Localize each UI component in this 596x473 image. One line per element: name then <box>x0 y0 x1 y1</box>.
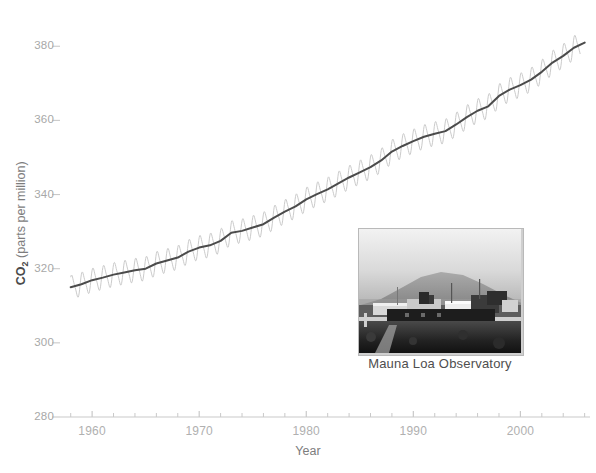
x-tick-label: 1970 <box>169 424 229 438</box>
y-tick-label-text: 280 <box>14 410 54 422</box>
y-tick-label-text: 300 <box>14 336 54 348</box>
x-tick-label: 2000 <box>490 424 550 438</box>
inset-caption: Mauna Loa Observatory <box>352 356 528 371</box>
y-axis-title-prefix: CO <box>14 266 28 285</box>
y-tick-label: 380 <box>14 39 54 53</box>
x-axis-title: Year <box>278 444 338 458</box>
y-axis-title-suffix: (parts per million) <box>14 161 28 261</box>
observatory-photo-image <box>359 229 521 353</box>
mauna-loa-observatory-photo <box>358 228 524 356</box>
x-tick-label: 1960 <box>62 424 122 438</box>
y-tick-label: 360 <box>14 113 54 127</box>
y-tick-label-text: 380 <box>14 39 54 51</box>
y-tick-label: 280 <box>14 410 54 424</box>
y-axis-title-subscript: 2 <box>20 261 30 266</box>
x-tick-label: 1980 <box>276 424 336 438</box>
x-axis-ticks <box>71 411 585 417</box>
y-tick-label-text: 360 <box>14 113 54 125</box>
y-axis-ticks <box>52 46 60 417</box>
co2-chart-figure: ........ .......... ...... .... 28030032… <box>0 0 596 473</box>
y-axis-title: CO2 (parts per million) <box>14 138 31 308</box>
y-tick-label: 300 <box>14 336 54 350</box>
x-tick-label: 1990 <box>383 424 443 438</box>
